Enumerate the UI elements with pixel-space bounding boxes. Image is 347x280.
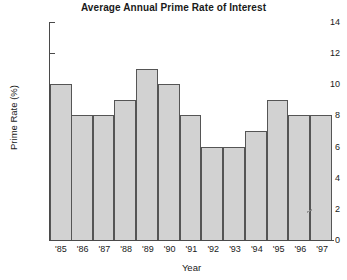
bar-90 (158, 84, 180, 240)
bar-93 (223, 147, 245, 240)
bar-cell (224, 22, 246, 240)
bar-92 (201, 147, 223, 240)
bar-cell (115, 22, 137, 240)
bar-cell (268, 22, 290, 240)
bar-86 (71, 115, 93, 240)
bar-cell (311, 22, 333, 240)
bar-series (50, 22, 333, 240)
x-tick-label: '95 (268, 244, 290, 255)
bar-cell (246, 22, 268, 240)
bar-95 (267, 100, 289, 240)
bar-97 (310, 115, 332, 240)
bar-88 (114, 100, 136, 240)
x-tick-label: '93 (224, 244, 246, 255)
x-tick-label: '86 (72, 244, 94, 255)
x-tick-label: '85 (50, 244, 72, 255)
bar-cell (94, 22, 116, 240)
bar-cell (50, 22, 72, 240)
x-tick-label: '90 (159, 244, 181, 255)
chart-container: Average Annual Prime Rate of Interest 02… (0, 0, 347, 280)
x-axis-tick-labels: '85'86'87'88'89'90'91'92'93'94'95'96'97 (50, 244, 333, 255)
bar-cell (159, 22, 181, 240)
bar-91 (180, 115, 202, 240)
bar-cell (181, 22, 203, 240)
x-tick-label: '92 (202, 244, 224, 255)
bar-cell (202, 22, 224, 240)
x-tick-label: '89 (137, 244, 159, 255)
y-tick-mark (50, 240, 55, 241)
x-tick-label: '91 (181, 244, 203, 255)
bar-85 (50, 84, 72, 240)
bar-94 (245, 131, 267, 240)
bar-cell (137, 22, 159, 240)
x-tick-label: '94 (246, 244, 268, 255)
x-axis-line (49, 240, 334, 241)
chart-title: Average Annual Prime Rate of Interest (0, 2, 347, 14)
y-axis-title: Prime Rate (%) (8, 53, 19, 183)
bar-87 (93, 115, 115, 240)
x-tick-label: '96 (289, 244, 311, 255)
x-tick-label: '87 (94, 244, 116, 255)
scan-artifact-mark (307, 205, 312, 217)
x-tick-label: '88 (115, 244, 137, 255)
bar-cell (72, 22, 94, 240)
bar-89 (136, 69, 158, 240)
x-tick-label: '97 (311, 244, 333, 255)
bar-96 (288, 115, 310, 240)
x-axis-title: Year (50, 262, 333, 273)
